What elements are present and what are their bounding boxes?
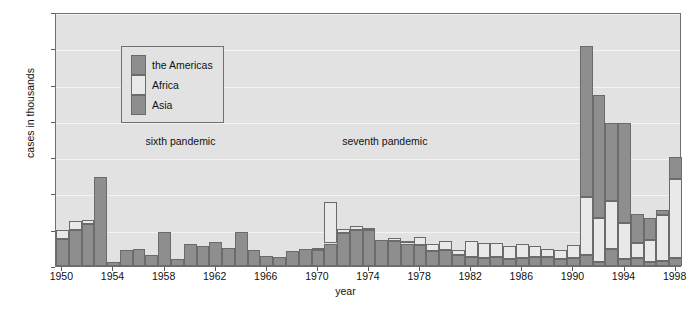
x-tick-label: 1958	[144, 270, 184, 282]
bar-segment	[171, 259, 184, 266]
x-tick-mark	[266, 267, 267, 271]
bar	[618, 12, 631, 266]
bar-segment	[82, 224, 95, 266]
plot-area: sixth pandemicseventh pandemic the Ameri…	[55, 13, 681, 267]
bar-segment	[567, 258, 580, 266]
bar-segment	[388, 241, 401, 266]
x-tick-mark	[675, 267, 676, 271]
bar-segment	[337, 233, 350, 266]
y-tick-mark	[51, 13, 55, 14]
bar-segment	[426, 244, 439, 251]
bar-segment	[350, 230, 363, 266]
bar-segment	[69, 221, 82, 230]
bar-segment	[452, 255, 465, 266]
bar-segment	[439, 241, 452, 250]
bar-segment	[184, 244, 197, 266]
bar-segment	[414, 245, 427, 266]
bar-segment	[631, 214, 644, 243]
chart-legend: the AmericasAfricaAsia	[121, 46, 224, 123]
bar	[567, 12, 580, 266]
bar-segment	[644, 262, 657, 266]
bar	[299, 12, 312, 266]
bar-segment	[299, 249, 312, 266]
bar-segment	[107, 262, 120, 266]
bar-segment	[593, 95, 606, 218]
bar-segment	[286, 251, 299, 266]
bar	[541, 12, 554, 266]
bar-segment	[452, 250, 465, 255]
bar	[286, 12, 299, 266]
bar-segment	[605, 201, 618, 248]
bar-segment	[644, 240, 657, 262]
bar-segment	[235, 232, 248, 266]
x-tick-mark	[624, 267, 625, 271]
x-tick-mark	[419, 267, 420, 271]
bar-segment	[312, 248, 325, 250]
x-tick-label: 1962	[195, 270, 235, 282]
bar-segment	[529, 246, 542, 257]
x-tick-label: 1994	[604, 270, 644, 282]
bar	[426, 12, 439, 266]
bar	[554, 12, 567, 266]
bar-segment	[260, 256, 273, 266]
y-tick-mark	[51, 158, 55, 159]
y-tick-mark	[51, 231, 55, 232]
legend-swatch	[131, 75, 146, 95]
bar	[260, 12, 273, 266]
bar	[312, 12, 325, 266]
bar	[516, 12, 529, 266]
bar-segment	[567, 245, 580, 258]
bar-segment	[197, 246, 210, 266]
bar-segment	[426, 251, 439, 266]
bar-segment	[145, 255, 158, 266]
bar-segment	[363, 230, 376, 266]
bar	[656, 12, 669, 266]
bar-segment	[503, 246, 516, 259]
bar-segment	[580, 255, 593, 266]
legend-swatch-stack	[131, 55, 146, 115]
bar-segment	[209, 242, 222, 266]
bar-segment	[605, 249, 618, 266]
y-tick-mark	[51, 122, 55, 123]
cholera-cases-stacked-bar-chart: cases in thousands sixth pandemicseventh…	[0, 0, 691, 309]
bar-segment	[158, 232, 171, 266]
bar-segment	[516, 244, 529, 258]
bar-segment	[529, 257, 542, 266]
bar-segment	[324, 244, 337, 266]
y-axis-title: cases in thousands	[24, 23, 36, 203]
bar-segment	[669, 157, 682, 179]
x-tick-mark	[521, 267, 522, 271]
bar	[273, 12, 286, 266]
bar-segment	[631, 258, 644, 266]
bar	[94, 12, 107, 266]
bar	[465, 12, 478, 266]
bar	[82, 12, 95, 266]
y-tick-mark	[51, 267, 55, 268]
bar-segment	[94, 177, 107, 266]
legend-label: Africa	[152, 79, 179, 91]
bar-segment	[222, 248, 235, 266]
x-tick-mark	[572, 267, 573, 271]
bar-segment	[580, 46, 593, 197]
bar-segment	[516, 258, 529, 266]
bar	[605, 12, 618, 266]
bar-segment	[465, 241, 478, 257]
bar-segment	[350, 226, 363, 230]
x-tick-label: 1970	[297, 270, 337, 282]
x-tick-label: 1990	[552, 270, 592, 282]
bar-segment	[273, 257, 286, 266]
bar-segment	[56, 239, 69, 266]
bar	[324, 12, 337, 266]
x-tick-label: 1998	[655, 270, 691, 282]
y-tick-mark	[51, 194, 55, 195]
x-axis-title: year	[0, 285, 691, 297]
x-tick-label: 1986	[501, 270, 541, 282]
bar-segment	[618, 223, 631, 259]
bar	[669, 12, 682, 266]
x-tick-mark	[470, 267, 471, 271]
legend-label: the Americas	[152, 59, 213, 71]
bar-segment	[541, 249, 554, 257]
y-tick-mark	[51, 49, 55, 50]
bar-segment	[312, 250, 325, 266]
bar-segment	[465, 257, 478, 266]
